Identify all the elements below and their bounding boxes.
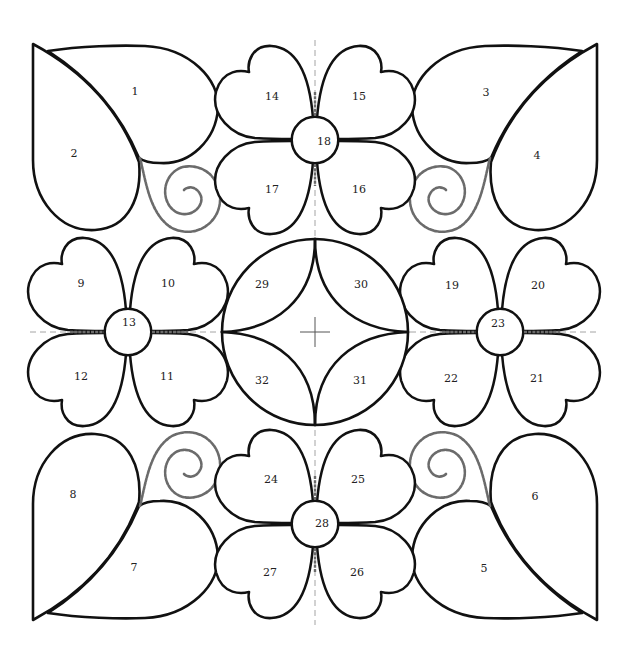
spiral-top-left <box>140 158 220 232</box>
center-medallion <box>222 239 408 425</box>
piece-label-14[interactable]: 14 <box>265 90 279 103</box>
piece-label-16[interactable]: 16 <box>352 183 366 196</box>
piece-label-30[interactable]: 30 <box>354 278 368 291</box>
pattern-diagram: 1 2 3 4 5 6 7 8 9 10 11 12 13 14 15 16 1… <box>0 0 625 655</box>
piece-label-21[interactable]: 21 <box>530 372 544 385</box>
piece-label-3[interactable]: 3 <box>483 86 490 99</box>
piece-label-29[interactable]: 29 <box>255 278 269 291</box>
corner-bottom-left <box>33 434 218 620</box>
corner-top-right <box>412 44 597 230</box>
piece-label-17[interactable]: 17 <box>265 183 279 196</box>
flower-left <box>28 238 228 426</box>
piece-label-20[interactable]: 20 <box>531 279 545 292</box>
piece-label-2[interactable]: 2 <box>71 147 78 160</box>
piece-label-7[interactable]: 7 <box>131 561 138 574</box>
piece-label-31[interactable]: 31 <box>353 374 367 387</box>
piece-label-8[interactable]: 8 <box>70 488 77 501</box>
piece-label-9[interactable]: 9 <box>78 277 85 290</box>
piece-label-22[interactable]: 22 <box>444 372 458 385</box>
piece-label-24[interactable]: 24 <box>264 473 278 486</box>
piece-label-10[interactable]: 10 <box>161 277 175 290</box>
spiral-bottom-left <box>140 432 220 506</box>
piece-label-32[interactable]: 32 <box>255 374 269 387</box>
piece-label-11[interactable]: 11 <box>160 370 174 383</box>
piece-label-5[interactable]: 5 <box>481 562 488 575</box>
piece-label-1[interactable]: 1 <box>132 85 139 98</box>
piece-label-13[interactable]: 13 <box>122 316 136 329</box>
piece-label-28[interactable]: 28 <box>315 517 329 530</box>
spiral-top-right <box>410 158 490 232</box>
piece-label-6[interactable]: 6 <box>532 490 539 503</box>
corner-bottom-right <box>412 434 597 620</box>
piece-label-27[interactable]: 27 <box>263 566 277 579</box>
piece-label-23[interactable]: 23 <box>491 317 505 330</box>
piece-label-26[interactable]: 26 <box>350 566 364 579</box>
piece-label-25[interactable]: 25 <box>351 473 365 486</box>
piece-label-4[interactable]: 4 <box>534 149 541 162</box>
piece-label-12[interactable]: 12 <box>74 370 88 383</box>
piece-label-18[interactable]: 18 <box>317 135 331 148</box>
spiral-bottom-right <box>410 432 490 506</box>
piece-label-19[interactable]: 19 <box>445 279 459 292</box>
piece-label-15[interactable]: 15 <box>352 90 366 103</box>
corner-top-left <box>33 44 218 230</box>
